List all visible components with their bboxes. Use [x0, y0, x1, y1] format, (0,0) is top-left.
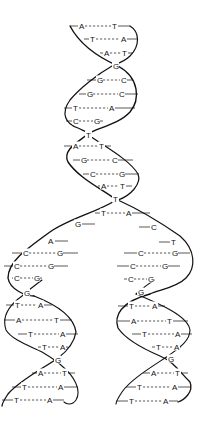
right-pair-base-right: G: [162, 262, 168, 271]
left-pair-base-left: T: [15, 301, 20, 310]
parent-pair-base-right: T: [112, 22, 117, 31]
right-pair-base-left: T: [156, 343, 161, 352]
parent-pair-base-left: G: [97, 76, 103, 85]
parent-pair-base-left: C: [90, 170, 96, 179]
right-crossing-base: G: [138, 288, 144, 297]
parent-pair-base-right: A: [121, 35, 127, 44]
right-pair-base-left: C: [130, 262, 136, 271]
right-pair-base-right: A: [175, 330, 181, 339]
parent-pair-base-right: T: [120, 182, 125, 191]
parent-pair-base-left: A: [101, 182, 107, 191]
right-pair-base-right: A: [172, 383, 178, 392]
dna-replication-diagram: ATTAATGCGCTACGATGCCGATTAGTTCGCGCGTAATTAT…: [0, 0, 204, 425]
parent-pair-base-left: A: [79, 22, 85, 31]
parent-pair-base-left: T: [73, 104, 78, 113]
parent-pair-base-left: G: [87, 90, 93, 99]
parent-crossing-base: T: [113, 195, 118, 204]
parent-crossing-base: T: [86, 131, 91, 140]
left-pair-base-right: T: [54, 316, 59, 325]
left-pair-base-left: T: [14, 396, 19, 405]
left-pair-base-left: A: [16, 316, 22, 325]
left-crossing-base: G: [24, 289, 30, 298]
left-pair-base-right: A: [58, 383, 64, 392]
parent-pair-base-right: G: [94, 117, 100, 126]
parent-pair-base-right: A: [109, 104, 115, 113]
left-pair-base-left: T: [22, 383, 27, 392]
parent-pair-base-left: C: [73, 117, 79, 126]
left-pair-base-right: G: [34, 274, 40, 283]
fork-pair-base-right: A: [126, 209, 132, 218]
left-pair-base-right: G: [48, 262, 54, 271]
parent-pair-base-right: T: [99, 142, 104, 151]
right-pair-base-left: T: [129, 397, 134, 406]
left-pair-base-left: A: [38, 369, 44, 378]
parent-pair-base-left: A: [73, 142, 79, 151]
base-labels: ATTAATGCGCTACGATGCCGATTAGTTCGCGCGTAATTAT…: [13, 22, 181, 407]
right-pair-base-left: C: [128, 275, 134, 284]
right-pair-base-right: A: [152, 302, 158, 311]
right-pair-base-right: T: [167, 317, 172, 326]
right-single-base: C: [151, 223, 157, 232]
left-pair-base-left: T: [28, 330, 33, 339]
left-pair-base-right: G: [57, 249, 63, 258]
parent-pair-base-left: T: [90, 35, 95, 44]
right-crossing-base: G: [168, 355, 174, 364]
right-pair-base-left: T: [137, 383, 142, 392]
parent-pair-base-right: T: [122, 49, 127, 58]
left-crossing-base: G: [55, 356, 61, 365]
right-daughter-strand-b: [116, 280, 190, 404]
left-pair-base-right: T: [62, 369, 67, 378]
parent-pair-base-right: C: [119, 90, 125, 99]
right-pair-base-left: A: [151, 369, 157, 378]
left-pair-base-left: T: [42, 343, 47, 352]
left-pair-base-right: A: [60, 343, 66, 352]
left-pair-base-right: A: [60, 330, 66, 339]
left-single-base: A: [48, 237, 54, 246]
right-pair-base-left: C: [138, 249, 144, 258]
left-pair-base-left: C: [14, 262, 20, 271]
parent-crossing-base: G: [113, 62, 119, 71]
left-single-base: G: [75, 220, 81, 229]
parent-pair-base-right: C: [121, 76, 127, 85]
right-pair-base-right: A: [174, 343, 180, 352]
parent-pair-base-left: A: [104, 49, 110, 58]
parent-pair-base-right: G: [119, 170, 125, 179]
right-pair-base-left: T: [142, 330, 147, 339]
right-pair-base-right: G: [172, 249, 178, 258]
right-pair-base-left: T: [129, 302, 134, 311]
parent-pair-base-left: G: [81, 156, 87, 165]
fork-pair-base-left: T: [101, 209, 106, 218]
right-pair-base-left: A: [131, 317, 137, 326]
left-pair-base-left: C: [23, 249, 29, 258]
parent-pair-base-right: C: [112, 156, 118, 165]
right-pair-base-right: A: [163, 397, 169, 406]
right-pair-base-right: G: [148, 275, 154, 284]
left-pair-base-right: A: [47, 396, 53, 405]
left-pair-base-right: A: [38, 301, 44, 310]
left-pair-base-left: C: [14, 274, 20, 283]
right-pair-base-right: T: [175, 369, 180, 378]
right-single-base: T: [171, 238, 176, 247]
